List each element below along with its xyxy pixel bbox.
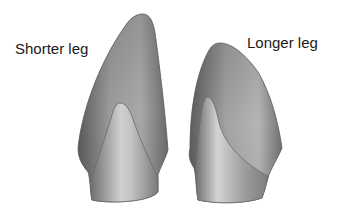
longer-leg-model	[189, 43, 282, 203]
models-illustration	[0, 0, 338, 211]
longer-leg-label: Longer leg	[247, 35, 318, 50]
figure: Shorter leg Longer leg	[0, 0, 338, 211]
shorter-leg-model	[78, 14, 168, 202]
shorter-leg-label: Shorter leg	[15, 41, 88, 56]
